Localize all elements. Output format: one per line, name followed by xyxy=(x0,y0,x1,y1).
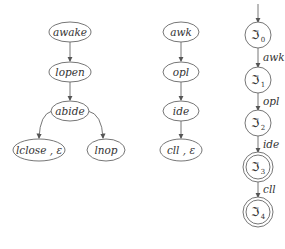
svg-text:ℑ: ℑ xyxy=(251,116,259,130)
diagram-canvas: awake lopen abide lclose , ε lnop awk op… xyxy=(0,0,285,249)
svg-text:awake: awake xyxy=(53,26,87,38)
svg-text:lclose , ε: lclose , ε xyxy=(16,144,63,156)
svg-text:lnop: lnop xyxy=(94,144,117,156)
transition-awk: awk xyxy=(263,51,285,63)
svg-text:ℑ: ℑ xyxy=(251,205,259,219)
state-1: ℑ 1 xyxy=(245,67,271,93)
state-0: ℑ 0 xyxy=(245,22,271,48)
svg-text:abide: abide xyxy=(55,105,84,117)
transition-opl: opl xyxy=(263,95,279,107)
svg-text:ℑ: ℑ xyxy=(251,160,259,174)
svg-text:cll , ε: cll , ε xyxy=(167,144,196,156)
chain-node-cll: cll , ε xyxy=(160,139,202,161)
svg-text:ℑ: ℑ xyxy=(251,73,259,87)
svg-text:4: 4 xyxy=(261,213,266,221)
tree-node-awake: awake xyxy=(49,22,91,42)
svg-text:3: 3 xyxy=(261,168,265,176)
chain-node-awk: awk xyxy=(163,22,199,42)
tree-node-lclose: lclose , ε xyxy=(13,139,65,161)
tree-edges xyxy=(39,42,103,138)
svg-text:opl: opl xyxy=(173,66,189,78)
svg-text:ℑ: ℑ xyxy=(251,28,259,42)
state-2: ℑ 2 xyxy=(245,110,271,136)
svg-text:1: 1 xyxy=(261,81,265,89)
svg-text:awk: awk xyxy=(170,26,192,38)
transition-cll: cll xyxy=(263,183,276,195)
svg-text:ide: ide xyxy=(173,105,189,117)
tree-node-lnop: lnop xyxy=(87,139,125,161)
svg-text:0: 0 xyxy=(261,36,265,44)
state-3-final: ℑ 3 xyxy=(243,152,273,182)
tree-node-abide: abide xyxy=(51,101,89,121)
svg-text:lopen: lopen xyxy=(55,66,85,78)
chain-node-opl: opl xyxy=(163,62,199,82)
state-4-final: ℑ 4 xyxy=(243,197,273,227)
tree-node-lopen: lopen xyxy=(49,62,91,82)
chain-node-ide: ide xyxy=(163,101,199,121)
svg-text:2: 2 xyxy=(261,124,265,132)
transition-ide: ide xyxy=(263,138,279,150)
